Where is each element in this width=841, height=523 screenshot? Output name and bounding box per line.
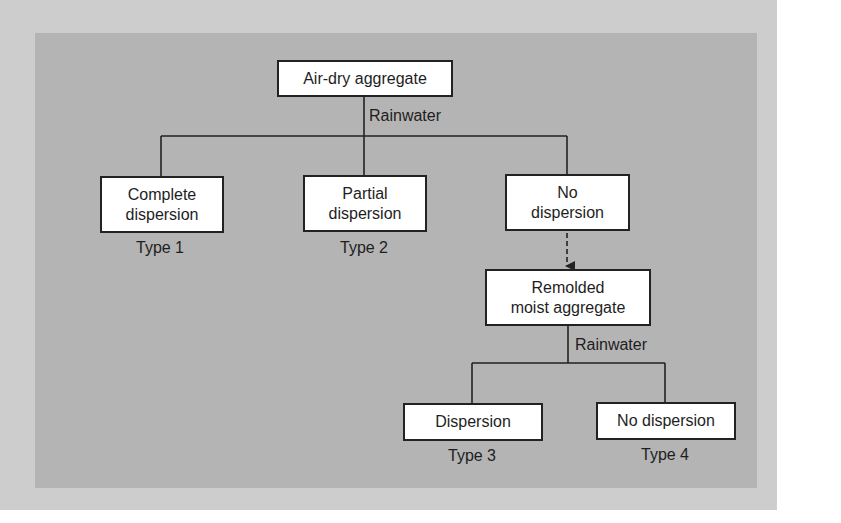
node-label: Partial dispersion [329,184,402,224]
node-no-dispersion: No dispersion [505,174,630,231]
node-air-dry-aggregate: Air-dry aggregate [277,60,453,97]
node-label: Complete dispersion [126,185,199,225]
node-label: No dispersion [531,183,604,223]
node-complete-dispersion: Complete dispersion [100,176,224,233]
type-label-4: Type 4 [641,446,689,464]
node-remolded-moist-aggregate: Remolded moist aggregate [485,269,651,326]
node-label: Dispersion [435,412,511,432]
type-label-3: Type 3 [448,447,496,465]
node-label: Remolded moist aggregate [511,278,626,318]
node-label: Air-dry aggregate [303,69,427,89]
treatment-label-rainwater-1: Rainwater [369,107,441,125]
type-label-1: Type 1 [136,239,184,257]
node-no-dispersion-remolded: No dispersion [596,402,736,440]
node-dispersion: Dispersion [403,403,543,441]
type-label-2: Type 2 [340,239,388,257]
treatment-label-rainwater-2: Rainwater [575,336,647,354]
node-partial-dispersion: Partial dispersion [303,175,427,232]
node-label: No dispersion [617,411,715,431]
